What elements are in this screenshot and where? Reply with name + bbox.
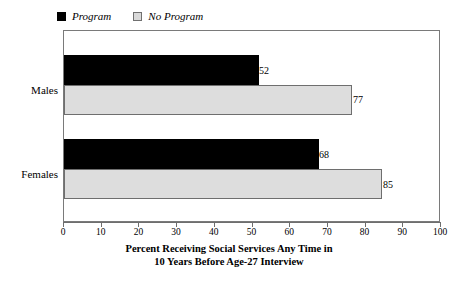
chart-page: Program No Program Males Females 52 77 6… xyxy=(0,0,458,282)
legend-label-program: Program xyxy=(72,11,111,22)
axis-title-line-2: 10 Years Before Age-27 Interview xyxy=(0,255,458,268)
x-tick-label-90: 90 xyxy=(398,228,408,238)
bar-value-males-no-program: 77 xyxy=(353,95,363,105)
plot-area xyxy=(64,31,439,221)
bar-males-no-program xyxy=(64,85,352,115)
chart-legend: Program No Program xyxy=(57,8,203,24)
legend-swatch-program-icon xyxy=(57,12,66,21)
bar-value-females-no-program: 85 xyxy=(383,180,393,190)
legend-entry-no-program: No Program xyxy=(133,11,203,22)
x-tick-label-30: 30 xyxy=(171,228,181,238)
plot-frame xyxy=(63,30,440,222)
x-tick-label-70: 70 xyxy=(322,228,332,238)
x-tick-label-20: 20 xyxy=(134,228,144,238)
bar-females-program xyxy=(64,139,319,169)
bar-value-males-program: 52 xyxy=(259,66,269,76)
legend-entry-program: Program xyxy=(57,11,111,22)
x-tick-label-10: 10 xyxy=(96,228,106,238)
axis-title-line-1: Percent Receiving Social Services Any Ti… xyxy=(0,242,458,255)
legend-swatch-no-program-icon xyxy=(133,12,142,21)
x-tick-label-100: 100 xyxy=(433,228,447,238)
x-tick-label-50: 50 xyxy=(247,228,257,238)
bar-value-females-program: 68 xyxy=(319,150,329,160)
x-tick-label-60: 60 xyxy=(284,228,294,238)
x-tick-label-0: 0 xyxy=(61,228,66,238)
x-tick-label-80: 80 xyxy=(360,228,370,238)
bar-females-no-program xyxy=(64,169,382,199)
bar-males-program xyxy=(64,55,259,85)
category-label-females: Females xyxy=(0,168,58,180)
x-tick-label-40: 40 xyxy=(209,228,219,238)
axis-title: Percent Receiving Social Services Any Ti… xyxy=(0,242,458,268)
legend-label-no-program: No Program xyxy=(148,11,203,22)
category-label-males: Males xyxy=(0,84,58,96)
